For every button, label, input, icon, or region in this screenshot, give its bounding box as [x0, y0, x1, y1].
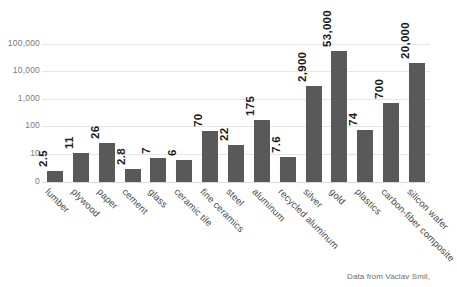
- y-axis-tick-label: 1,000: [2, 94, 40, 103]
- bar[interactable]: [73, 153, 89, 182]
- bar[interactable]: [254, 120, 270, 182]
- bar[interactable]: [409, 63, 425, 182]
- bar-value-label: 70: [192, 113, 204, 126]
- bar-slot: 11: [68, 10, 94, 182]
- bar[interactable]: [150, 158, 166, 182]
- y-axis: 0101001,00010,000100,000: [0, 10, 40, 182]
- x-axis-category-label: glass: [146, 186, 170, 210]
- bar-value-label: 7.6: [270, 136, 282, 153]
- bar[interactable]: [280, 157, 296, 182]
- y-axis-tick-label: 100,000: [2, 39, 40, 48]
- y-axis-tick-label: 100: [2, 121, 40, 130]
- source-note: Data from Vaclav Smil,: [347, 272, 430, 281]
- bar-value-label: 2,900: [296, 52, 308, 82]
- bar-slot: 20,000: [404, 10, 430, 182]
- bar-slot: 70: [197, 10, 223, 182]
- bar-value-label: 175: [244, 96, 256, 116]
- bar[interactable]: [331, 51, 347, 182]
- bar-value-label: 22: [218, 127, 230, 140]
- bar-value-label: 26: [89, 125, 101, 138]
- bar[interactable]: [47, 171, 63, 182]
- bar-slot: 175: [249, 10, 275, 182]
- bar-value-label: 20,000: [399, 22, 411, 59]
- bar-slot: 7.6: [275, 10, 301, 182]
- bar-value-label: 74: [347, 113, 359, 126]
- bar-value-label: 11: [63, 136, 75, 149]
- bar-slot: 6: [171, 10, 197, 182]
- bar[interactable]: [228, 145, 244, 182]
- x-axis-category-label: steel: [224, 186, 246, 208]
- bar-value-label: 7: [140, 148, 152, 155]
- x-axis-category-label: lumber: [43, 186, 72, 215]
- bar-slot: 7: [145, 10, 171, 182]
- bar-value-label: 2.8: [115, 149, 127, 166]
- bar[interactable]: [99, 143, 115, 182]
- x-axis-category-label: gold: [328, 186, 349, 207]
- y-axis-tick-label: 10,000: [2, 66, 40, 75]
- y-axis-tick-label: 10: [2, 149, 40, 158]
- y-axis-tick-label: 0: [2, 177, 40, 186]
- x-axis: lumberplywoodpapercementglassceramic til…: [42, 184, 430, 284]
- bar-value-label: 53,000: [321, 10, 333, 47]
- bar[interactable]: [176, 160, 192, 182]
- bar[interactable]: [383, 103, 399, 182]
- bar[interactable]: [202, 131, 218, 182]
- bars-layer: 2.511262.87670221757.62,90053,0007470020…: [42, 10, 430, 182]
- bar-slot: 53,000: [327, 10, 353, 182]
- bar-value-label: 2.5: [37, 150, 49, 167]
- x-axis-category-label: plastics: [353, 186, 384, 217]
- bar[interactable]: [125, 169, 141, 182]
- gridline: [42, 182, 430, 183]
- bar-value-label: 700: [373, 79, 385, 99]
- bar-value-label: 6: [166, 150, 178, 157]
- bar-slot: 2.8: [120, 10, 146, 182]
- x-axis-category-label: cement: [121, 186, 151, 216]
- bar[interactable]: [357, 130, 373, 182]
- bar[interactable]: [306, 86, 322, 182]
- bar-slot: 2.5: [42, 10, 68, 182]
